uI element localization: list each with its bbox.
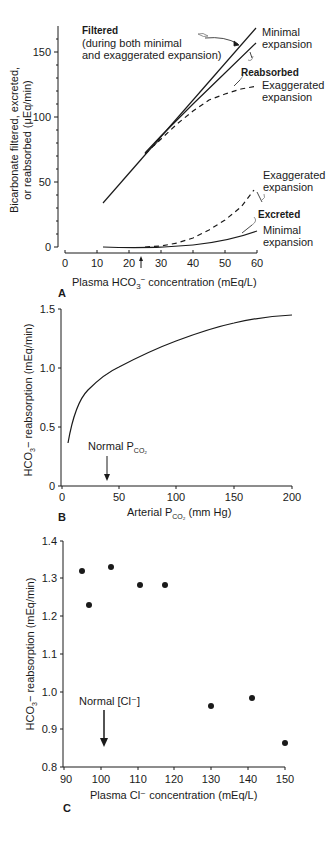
data-point: [282, 740, 288, 746]
panel-a-exag-top-label: expansion: [262, 91, 312, 103]
panel-c: 0.8 0.9 1.0 1.1 1.2 1.3 1.4 90 100 110 1…: [24, 535, 294, 814]
panel-a-xtick: 10: [91, 257, 103, 269]
panel-c-xtick: 120: [165, 773, 183, 785]
panel-a-ytick: 50: [39, 176, 51, 188]
panel-a-y-label: Bicarbonate filtered, excreted, or reabs…: [8, 67, 33, 213]
panel-a-excreted-minimal-line: [103, 231, 257, 248]
panel-b-x-ticks: 0 50 100 150 200: [59, 486, 301, 503]
panel-c-ytick: 1.3: [42, 572, 57, 584]
panel-b-ytick: 0.5: [40, 421, 55, 433]
panel-b-x-label: Arterial PCO₂ (mm Hg): [127, 506, 231, 520]
panel-a-exag-bot-label: Exaggerated: [263, 169, 325, 181]
panel-b-curve: [68, 315, 292, 443]
panel-a-xtick: 0: [62, 257, 68, 269]
panel-a-minimal-bot-label: Minimal: [263, 224, 301, 236]
panel-c-normal-cl-label: Normal [Cl⁻]: [79, 695, 140, 707]
data-point: [249, 695, 255, 701]
panel-b-ytick: 0: [49, 480, 55, 492]
panel-a-exag-top-label: Exaggerated: [262, 79, 324, 91]
panel-a-ytick: 0: [45, 241, 51, 253]
panel-c-xtick: 130: [202, 773, 220, 785]
panel-b-xtick: 100: [167, 491, 185, 503]
svg-text:Bicarbonate filtered, excreted: Bicarbonate filtered, excreted,: [8, 67, 20, 213]
panel-b-ytick: 1.5: [40, 303, 55, 315]
panel-b-letter: B: [58, 511, 66, 523]
panel-a-normal-arrow-icon: [139, 256, 143, 268]
panel-a-minimal-top-label: expansion: [262, 38, 312, 50]
panel-a-filtered-label: Filtered: [82, 25, 118, 36]
panel-a-letter: A: [58, 287, 66, 299]
panel-c-xtick: 100: [92, 773, 110, 785]
panel-a-reabsorbed-label: Reabsorbed: [241, 67, 299, 78]
panel-c-ytick: 0.8: [42, 761, 57, 773]
panel-a-excreted-exaggerated-line: [145, 190, 254, 247]
data-point: [137, 582, 143, 588]
data-point: [79, 568, 85, 574]
panel-c-x-ticks: 90 100 110 120 130 140 150: [60, 767, 294, 785]
panel-a-pointer-arrows: [154, 33, 265, 233]
panel-a-xtick: 20: [123, 257, 135, 269]
panel-a-minimal-bot-label: expansion: [263, 236, 313, 248]
panel-b-xtick: 200: [283, 491, 301, 503]
svg-text:or reabsorbed (μEq/min): or reabsorbed (μEq/min): [21, 80, 33, 199]
panel-b-y-label: HCO3− reabsorption (mEq/min): [22, 324, 36, 477]
panel-a-xtick: 40: [187, 257, 199, 269]
panel-a-filtered-desc: and exaggerated expansion): [82, 49, 221, 61]
data-point: [86, 602, 92, 608]
panel-a-exag-bot-label: expansion: [263, 181, 313, 193]
panel-a-xtick: 50: [219, 257, 231, 269]
panel-a-x-label: Plasma HCO3− concentration (mEq/L): [72, 275, 257, 291]
panel-b: 0 0.5 1.0 1.5 0 50 100 150 200 Normal PC…: [22, 303, 301, 523]
panel-b-normal-pco2-label: Normal PCO₂: [88, 440, 147, 454]
panel-c-ytick: 1.2: [42, 610, 57, 622]
panel-c-xtick: 110: [129, 773, 147, 785]
panel-c-data-points: [79, 564, 288, 746]
data-point: [162, 582, 168, 588]
panel-c-letter: C: [63, 802, 71, 814]
panel-a-filtered-desc: (during both minimal: [82, 37, 182, 49]
panel-c-ytick: 1.1: [42, 648, 57, 660]
panel-a-xtick: 60: [251, 257, 263, 269]
panel-c-y-label: HCO3− reabsorption (mEq/min): [24, 578, 38, 731]
panel-a-y-ticks: 0 50 100 150: [33, 46, 58, 253]
panel-b-y-ticks: 0 0.5 1.0 1.5: [40, 303, 61, 492]
panel-c-xtick: 140: [239, 773, 257, 785]
data-point: [208, 703, 214, 709]
panel-c-xtick: 150: [276, 773, 294, 785]
panel-c-ytick: 1.4: [42, 535, 57, 547]
panel-a-ytick: 150: [33, 46, 51, 58]
figure: 0 50 100 150 0 10 20 30 40 50 60 Plasma …: [0, 0, 333, 853]
panel-c-xtick: 90: [60, 773, 72, 785]
panel-a-excreted-label: Excreted: [258, 209, 300, 220]
panel-c-normal-arrow-icon: [100, 710, 108, 747]
data-point: [108, 564, 114, 570]
panel-b-xtick: 50: [113, 491, 125, 503]
panel-b-ytick: 1.0: [40, 362, 55, 374]
panel-a-xtick: 30: [155, 257, 167, 269]
panel-c-ytick: 1.0: [42, 686, 57, 698]
panel-c-y-ticks: 0.8 0.9 1.0 1.1 1.2 1.3 1.4: [42, 535, 63, 773]
panel-b-xtick: 150: [225, 491, 243, 503]
panel-a: 0 50 100 150 0 10 20 30 40 50 60 Plasma …: [8, 25, 325, 299]
panel-a-ytick: 100: [33, 111, 51, 123]
panel-c-x-label: Plasma Cl⁻ concentration (mEq/L): [90, 789, 257, 801]
panel-c-ytick: 0.9: [42, 723, 57, 735]
panel-a-minimal-top-label: Minimal: [262, 26, 300, 38]
panel-b-xtick: 0: [59, 491, 65, 503]
panel-b-normal-arrow-icon: [104, 456, 110, 481]
